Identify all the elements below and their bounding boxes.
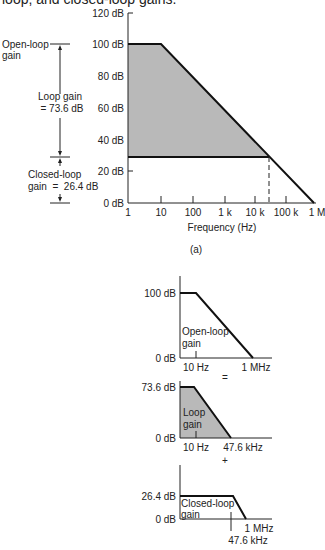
x-axis-title: Frequency (Hz) (188, 222, 257, 233)
svg-text:gain = 26.4 dB: gain = 26.4 dB (28, 181, 99, 192)
svg-text:= 73.6 dB: = 73.6 dB (40, 103, 83, 114)
svg-text:0 dB: 0 dB (103, 198, 124, 209)
svg-text:10 Hz: 10 Hz (183, 362, 209, 373)
svg-text:10 Hz: 10 Hz (183, 442, 209, 453)
svg-text:73.6 dB: 73.6 dB (142, 382, 177, 393)
svg-text:1 k: 1 k (218, 207, 232, 218)
panel-a-annotations: Open-loop gain Loop gain = 73.6 dB Close… (2, 39, 99, 192)
panel-b-closed-loop-plot: 26.4 dB 0 dB Closed-loop gain 1 MHz 47.6… (142, 465, 274, 546)
svg-text:0 dB: 0 dB (155, 433, 176, 444)
svg-text:1 MHz: 1 MHz (242, 362, 271, 373)
svg-text:26.4 dB: 26.4 dB (142, 491, 177, 502)
svg-text:gain: gain (181, 509, 200, 520)
panel-b-loop-gain-plot: 73.6 dB 0 dB Loop gain 10 Hz 47.6 kHz + (142, 381, 272, 466)
svg-text:gain: gain (182, 338, 201, 349)
svg-text:Closed-loop: Closed-loop (28, 169, 82, 180)
svg-text:47.6 kHz: 47.6 kHz (228, 535, 267, 546)
plus-sign: + (222, 455, 228, 466)
svg-text:100 dB: 100 dB (92, 39, 124, 50)
svg-text:60 dB: 60 dB (98, 103, 124, 114)
svg-text:Loop gain: Loop gain (38, 91, 82, 102)
x-tick-labels: 1 10 100 1 k 10 k 100 k 1 M (125, 207, 325, 218)
bode-diagram: 120 dB 100 dB 80 dB 60 dB 40 dB 20 dB 0 … (0, 0, 325, 550)
svg-text:Open-loop: Open-loop (182, 326, 229, 337)
panel-a-chart: 120 dB 100 dB 80 dB 60 dB 40 dB 20 dB 0 … (92, 8, 325, 255)
svg-text:gain: gain (2, 50, 21, 61)
svg-text:40 dB: 40 dB (98, 135, 124, 146)
svg-text:10 k: 10 k (246, 207, 266, 218)
svg-text:1 M: 1 M (309, 207, 325, 218)
svg-text:gain: gain (183, 419, 202, 430)
svg-text:Open-loop: Open-loop (2, 39, 49, 50)
svg-text:120 dB: 120 dB (92, 8, 124, 19)
svg-text:Loop: Loop (183, 407, 206, 418)
svg-text:Closed-loop: Closed-loop (181, 498, 235, 509)
svg-text:100: 100 (185, 207, 202, 218)
svg-text:100 k: 100 k (274, 207, 299, 218)
y-tick-labels: 120 dB 100 dB 80 dB 60 dB 40 dB 20 dB 0 … (92, 8, 124, 209)
equals-sign: = (222, 372, 228, 383)
svg-text:0 dB: 0 dB (155, 514, 176, 525)
svg-text:80 dB: 80 dB (98, 71, 124, 82)
svg-text:1: 1 (125, 207, 131, 218)
loop-gain-shaded-area (128, 44, 269, 157)
panel-a-label: (a) (190, 244, 202, 255)
svg-text:100 dB: 100 dB (144, 288, 176, 299)
svg-text:1 MHz: 1 MHz (245, 523, 274, 534)
svg-text:20 dB: 20 dB (98, 166, 124, 177)
svg-text:10: 10 (155, 207, 167, 218)
panel-b-open-loop-plot: 100 dB 0 dB Open-loop gain 10 Hz 1 MHz = (144, 276, 272, 383)
x-tick-marks (161, 196, 286, 203)
svg-text:0 dB: 0 dB (155, 353, 176, 364)
svg-text:47.6 kHz: 47.6 kHz (223, 442, 262, 453)
